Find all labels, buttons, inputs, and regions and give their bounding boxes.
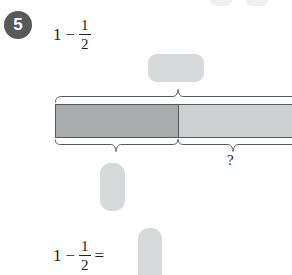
blank-answer[interactable] bbox=[138, 228, 162, 275]
bar-model bbox=[55, 104, 292, 138]
bottom-expression-operator: − bbox=[63, 247, 79, 264]
unknown-quantity-label: ? bbox=[227, 153, 234, 168]
bottom-expression-fraction: 1 2 bbox=[79, 238, 91, 273]
bottom-expression: 1 − 1 2 = bbox=[52, 238, 107, 273]
blank-whole-label[interactable] bbox=[148, 54, 204, 82]
cutoff-content-above bbox=[210, 0, 268, 6]
top-expression-fraction-numerator: 1 bbox=[79, 17, 91, 33]
fraction-bar-icon bbox=[79, 34, 91, 35]
question-number-badge: 5 bbox=[4, 11, 32, 39]
fraction-bar-icon bbox=[79, 255, 91, 256]
bottom-expression-first-term: 1 bbox=[52, 247, 63, 264]
top-expression-fraction: 1 2 bbox=[79, 17, 91, 52]
cutoff-shape-right bbox=[246, 0, 268, 6]
top-expression: 1 − 1 2 bbox=[52, 17, 92, 52]
bottom-expression-equals: = bbox=[92, 247, 108, 264]
bar-segment-shaded bbox=[56, 105, 179, 137]
top-expression-fraction-denominator: 2 bbox=[79, 36, 91, 52]
brace-shaded-half bbox=[55, 139, 178, 153]
brace-unknown-half bbox=[178, 139, 292, 153]
top-expression-first-term: 1 bbox=[52, 26, 63, 43]
bottom-expression-fraction-numerator: 1 bbox=[79, 238, 91, 254]
cutoff-shape-left bbox=[210, 0, 232, 6]
top-expression-operator: − bbox=[63, 26, 79, 43]
bar-segment-unshaded bbox=[179, 105, 292, 137]
bottom-expression-fraction-denominator: 2 bbox=[79, 257, 91, 273]
blank-shaded-half-label[interactable] bbox=[100, 163, 125, 211]
brace-whole bbox=[55, 88, 292, 103]
